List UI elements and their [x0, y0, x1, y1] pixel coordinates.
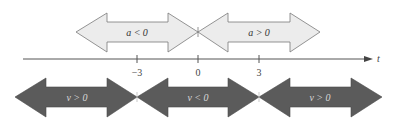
tick-label: −3 [132, 67, 143, 78]
time-axis: t −3 0 3 [23, 53, 380, 78]
acceleration-positive-label: a > 0 [248, 27, 270, 38]
sign-chart-diagram: a < 0 a > 0 t −3 0 3 v > 0 v < 0 v > 0 [0, 0, 393, 124]
axis-arrowhead [364, 56, 373, 62]
velocity-positive-left-label: v > 0 [66, 92, 87, 103]
velocity-negative-label: v < 0 [187, 92, 208, 103]
tick-label: 0 [196, 67, 201, 78]
velocity-positive-right-label: v > 0 [309, 92, 330, 103]
acceleration-negative-label: a < 0 [126, 27, 148, 38]
tick-label: 3 [257, 67, 262, 78]
axis-variable-label: t [377, 53, 380, 64]
